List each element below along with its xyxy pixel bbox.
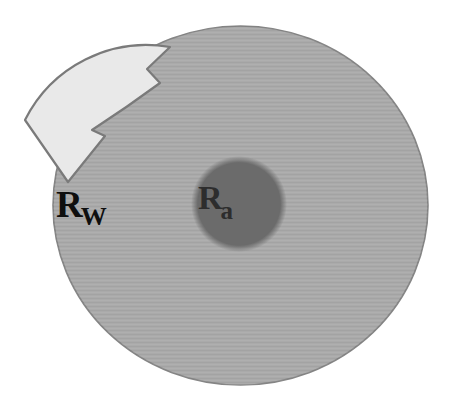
outer-disk-label-subscript: W — [81, 202, 107, 231]
figure-canvas: RW Ra — [0, 0, 449, 405]
inner-disk-label-subscript: a — [221, 197, 234, 224]
inner-disk-label-main: R — [198, 179, 223, 216]
rotating-disk-diagram: RW Ra — [0, 0, 449, 405]
